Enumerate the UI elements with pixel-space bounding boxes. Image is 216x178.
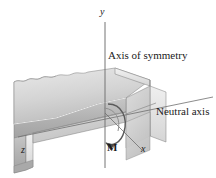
neutral-axis-label: Neutral axis xyxy=(156,106,209,117)
axis-of-symmetry-label: Axis of symmetry xyxy=(108,50,187,61)
y-axis-label: y xyxy=(100,7,104,17)
z-axis-label: z xyxy=(21,145,25,155)
channel-beam xyxy=(14,68,166,173)
figure-container: Axis of symmetry Neutral axis y x z M xyxy=(0,0,216,178)
moment-label: M xyxy=(107,142,117,153)
x-axis-label: x xyxy=(141,144,145,154)
